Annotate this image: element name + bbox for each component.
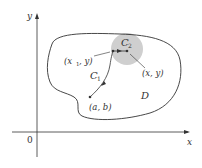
y-axis-label: y [26, 11, 33, 21]
svg-text:, y): , y) [79, 56, 93, 66]
label-c1: C 1 [90, 70, 101, 82]
y-axis [35, 13, 39, 157]
x-axis [12, 130, 190, 134]
point-x1-y [112, 50, 115, 53]
label-a-b: (a, b) [89, 102, 112, 112]
region-label-d: D [140, 90, 149, 101]
origin-label: 0 [27, 135, 33, 145]
x-axis-label: x [187, 137, 192, 147]
label-x-y: (x, y) [142, 68, 164, 78]
svg-text:2: 2 [128, 42, 132, 49]
diagram-canvas: y x 0 D C 2 C 1 (a, b) (x 1 , y) (x, y) [0, 0, 202, 168]
point-a-b [89, 96, 92, 99]
svg-text:(x: (x [64, 56, 72, 66]
label-x1-y: (x 1 , y) [64, 56, 93, 67]
point-x-y [126, 50, 129, 53]
svg-text:1: 1 [97, 75, 101, 82]
